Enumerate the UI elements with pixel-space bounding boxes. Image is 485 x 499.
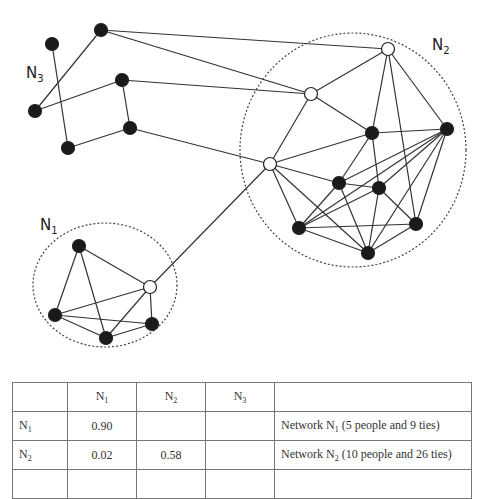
table-cell <box>275 470 472 499</box>
broker-node <box>305 88 318 101</box>
table-cell <box>206 470 275 499</box>
tie-edge <box>388 49 416 224</box>
tie-edge <box>311 94 372 133</box>
tie-edge <box>150 164 270 287</box>
density-value: 0.90 <box>68 412 137 441</box>
network-label-n1: N1 <box>40 216 58 236</box>
tie-edge <box>372 133 379 188</box>
broker-node <box>382 43 395 56</box>
person-node <box>46 38 59 51</box>
table-header-cell <box>13 383 68 412</box>
person-node <box>49 309 62 322</box>
tie-edge <box>101 30 311 94</box>
network-edges <box>35 30 447 338</box>
density-value: 0.58 <box>137 441 206 470</box>
person-node <box>95 24 108 37</box>
table-header-cell <box>275 383 472 412</box>
network-nodes <box>29 24 454 345</box>
network-label-n3: N3 <box>26 64 44 84</box>
tie-edge <box>122 80 311 94</box>
density-value <box>137 412 206 441</box>
row-label: N1 <box>13 412 68 441</box>
row-label: N2 <box>13 441 68 470</box>
table-cell <box>137 470 206 499</box>
tie-edge <box>339 183 368 253</box>
density-value: 0.02 <box>68 441 137 470</box>
table-row-partial <box>13 470 472 499</box>
person-node <box>410 218 423 231</box>
broker-node <box>264 158 277 171</box>
tie-edge <box>68 128 130 148</box>
tie-edge <box>372 49 388 133</box>
person-node <box>146 318 159 331</box>
density-value <box>206 412 275 441</box>
person-node <box>366 127 379 140</box>
person-node <box>373 182 386 195</box>
person-node <box>29 105 42 118</box>
network-description: Network N1 (5 people and 9 ties) <box>275 412 472 441</box>
tie-edge <box>106 324 152 338</box>
table-row: N10.90Network N1 (5 people and 9 ties) <box>13 412 472 441</box>
table-header-cell: N2 <box>137 383 206 412</box>
tie-edge <box>339 129 447 183</box>
person-node <box>116 74 129 87</box>
person-node <box>73 240 86 253</box>
tie-edge <box>388 49 447 129</box>
person-node <box>124 122 137 135</box>
tie-edge <box>368 224 416 253</box>
person-node <box>62 142 75 155</box>
tie-edge <box>299 228 368 253</box>
tie-edge <box>55 246 79 315</box>
table-row: N20.020.58Network N2 (10 people and 26 t… <box>13 441 472 470</box>
cluster-boundaries <box>33 33 466 347</box>
tie-edge <box>106 287 150 338</box>
person-node <box>293 222 306 235</box>
person-node <box>362 247 375 260</box>
tie-edge <box>130 128 270 164</box>
broker-node <box>144 281 157 294</box>
table-cell <box>68 470 137 499</box>
tie-edge <box>339 133 372 183</box>
network-label-n2: N2 <box>432 36 450 56</box>
tie-edge <box>55 315 152 324</box>
density-value <box>206 441 275 470</box>
tie-edge <box>368 188 379 253</box>
tie-edge <box>270 164 299 228</box>
table-header-cell: N1 <box>68 383 137 412</box>
tie-edge <box>122 80 130 128</box>
density-table: N1N2N3N10.90Network N1 (5 people and 9 t… <box>12 382 472 499</box>
tie-edge <box>372 129 447 133</box>
network-diagram: N3N2N1 <box>0 0 485 375</box>
tie-edge <box>379 188 416 224</box>
person-node <box>333 177 346 190</box>
tie-edge <box>55 287 150 315</box>
table-header-row: N1N2N3 <box>13 383 472 412</box>
tie-edge <box>311 49 388 94</box>
tie-edge <box>299 188 379 228</box>
network-labels: N3N2N1 <box>26 36 450 236</box>
table-header-cell: N3 <box>206 383 275 412</box>
tie-edge <box>416 129 447 224</box>
person-node <box>441 123 454 136</box>
tie-edge <box>52 44 68 148</box>
cluster-n2-boundary <box>240 33 466 267</box>
table-cell <box>13 470 68 499</box>
network-description: Network N2 (10 people and 26 ties) <box>275 441 472 470</box>
person-node <box>100 332 113 345</box>
